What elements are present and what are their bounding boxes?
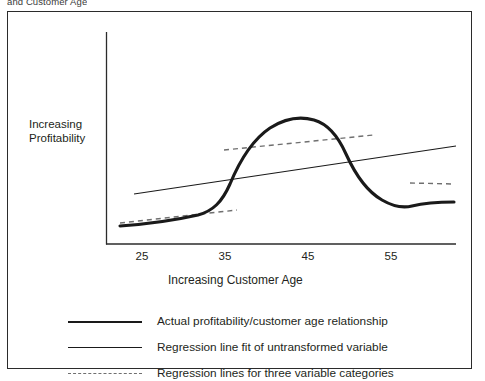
chart-legend: Actual profitability/customer age relati… — [63, 308, 463, 381]
y-axis-title: Increasing Profitability — [29, 118, 109, 145]
dashed-segment-mid — [224, 135, 374, 150]
dashed-segment-low — [120, 210, 237, 223]
legend-item-regression: Regression line fit of untransformed var… — [63, 334, 463, 360]
xtick-label-45: 45 — [293, 250, 323, 262]
actual-relationship-curve — [120, 118, 454, 226]
legend-label-regression: Regression line fit of untransformed var… — [147, 340, 388, 354]
figure-caption-top: and Customer Age — [7, 0, 87, 7]
legend-swatch-thick-line — [63, 315, 147, 327]
regression-line-untransformed — [134, 146, 456, 194]
xtick-label-25: 25 — [127, 250, 157, 262]
xtick-label-35: 35 — [210, 250, 240, 262]
legend-label-actual: Actual profitability/customer age relati… — [147, 314, 388, 328]
xtick-label-55: 55 — [376, 250, 406, 262]
legend-swatch-dashed-line — [63, 367, 147, 379]
legend-item-categories: Regression lines for three variable cate… — [63, 360, 463, 381]
dashed-segment-high — [410, 183, 454, 184]
legend-swatch-thin-line — [63, 341, 147, 353]
legend-item-actual: Actual profitability/customer age relati… — [63, 308, 463, 334]
dashed-regression-lines — [120, 135, 454, 223]
x-axis-title: Increasing Customer Age — [168, 273, 303, 287]
legend-label-categories: Regression lines for three variable cate… — [147, 366, 394, 380]
figure-frame: 25 35 45 55 Increasing Customer Age Incr… — [7, 11, 472, 369]
